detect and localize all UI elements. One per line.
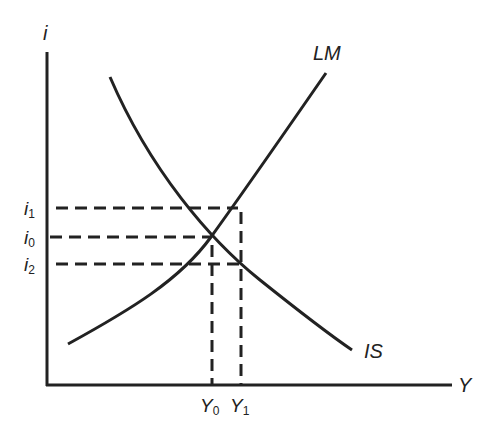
y1-label: Y1 bbox=[230, 395, 250, 418]
is-label: IS bbox=[364, 340, 384, 362]
x-axis-label: Y bbox=[458, 374, 473, 396]
is-curve bbox=[110, 77, 352, 350]
i2-label: i2 bbox=[24, 254, 35, 277]
islm-diagram: i Y LM IS i1 i0 i2 Y0 Y1 bbox=[0, 0, 488, 429]
i0-label: i0 bbox=[24, 227, 35, 250]
diagram-canvas: i Y LM IS i1 i0 i2 Y0 Y1 bbox=[0, 0, 488, 429]
i1-label: i1 bbox=[24, 198, 35, 221]
y0-label: Y0 bbox=[200, 395, 220, 418]
lm-label: LM bbox=[313, 42, 341, 64]
y-axis-label: i bbox=[43, 22, 48, 44]
